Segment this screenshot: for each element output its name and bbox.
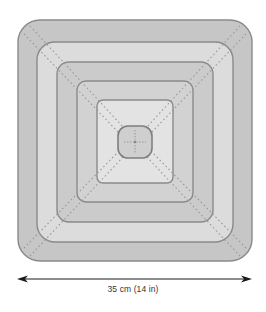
blanket-diagram	[0, 0, 266, 312]
dimension-label: 35 cm (14 in)	[0, 284, 266, 294]
center-motif	[118, 126, 152, 158]
dimension-arrow	[17, 276, 252, 283]
